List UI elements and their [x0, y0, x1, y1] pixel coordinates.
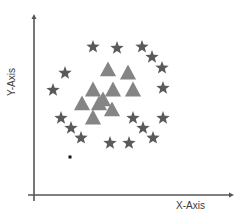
star-marker-icon — [103, 136, 116, 149]
star-marker-icon — [86, 40, 99, 53]
triangle-marker-icon — [100, 61, 116, 76]
y-axis-arrow-icon — [32, 14, 37, 19]
y-axis-label: Y-Axis — [6, 68, 17, 96]
triangle-marker-icon — [125, 82, 141, 97]
data-points — [46, 40, 169, 159]
star-marker-icon — [155, 61, 168, 74]
dot-marker-icon — [69, 155, 72, 158]
star-marker-icon — [135, 40, 148, 53]
triangle-marker-icon — [85, 110, 101, 125]
triangle-marker-icon — [85, 82, 101, 97]
axes — [28, 14, 234, 201]
star-marker-icon — [74, 131, 87, 144]
star-marker-icon — [54, 111, 67, 124]
triangle-marker-icon — [74, 95, 90, 110]
star-marker-icon — [145, 50, 158, 63]
triangle-marker-icon — [120, 65, 136, 80]
star-marker-icon — [58, 66, 71, 79]
scatter-chart — [0, 0, 248, 224]
star-marker-icon — [110, 41, 123, 54]
star-marker-icon — [46, 83, 59, 96]
star-marker-icon — [64, 121, 77, 134]
star-marker-icon — [136, 121, 149, 134]
x-axis-label: X-Axis — [176, 200, 205, 211]
star-marker-icon — [146, 131, 159, 144]
triangle-marker-icon — [105, 82, 121, 97]
x-axis-arrow-icon — [229, 193, 234, 198]
star-marker-icon — [156, 111, 169, 124]
star-marker-icon — [126, 111, 139, 124]
star-marker-icon — [156, 81, 169, 94]
star-marker-icon — [122, 136, 135, 149]
